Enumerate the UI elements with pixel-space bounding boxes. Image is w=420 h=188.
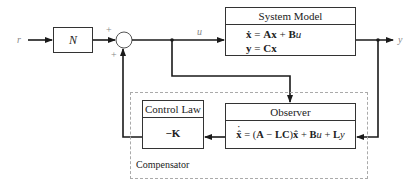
system-model-equations: ẋ = Ax + Bu y = Cx bbox=[226, 25, 355, 55]
control-law-title: Control Law bbox=[143, 101, 203, 118]
observer-block: Observer ˙x̂ = (A − LC)x̂ + Bu + Ly bbox=[225, 103, 356, 149]
sum-plus-top: + bbox=[106, 25, 112, 35]
output-equation: y = Cx bbox=[246, 41, 355, 55]
control-signal-label: u bbox=[197, 27, 202, 37]
observer-title: Observer bbox=[226, 104, 355, 121]
input-label: r bbox=[17, 35, 21, 45]
state-equation: ẋ = Ax + Bu bbox=[246, 27, 355, 41]
summing-junction bbox=[116, 32, 132, 48]
gain-block-label: N bbox=[69, 33, 77, 47]
control-law-block: Control Law −K bbox=[142, 100, 204, 149]
output-label: y bbox=[398, 35, 402, 45]
system-model-title: System Model bbox=[226, 8, 355, 25]
gain-block-n: N bbox=[53, 27, 93, 53]
system-model-block: System Model ẋ = Ax + Bu y = Cx bbox=[225, 7, 356, 56]
sum-plus-bottom: + bbox=[111, 50, 117, 60]
observer-equation: ˙x̂ = (A − LC)x̂ + Bu + Ly bbox=[226, 121, 355, 149]
compensator-label: Compensator bbox=[136, 160, 189, 170]
control-law-gain: −K bbox=[143, 118, 203, 148]
